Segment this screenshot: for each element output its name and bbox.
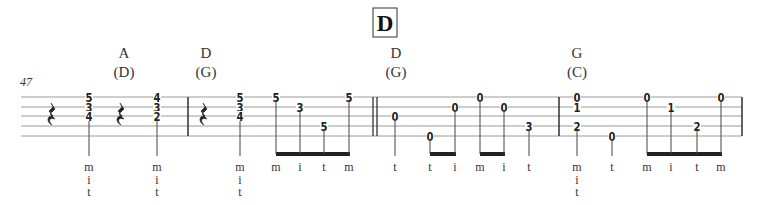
tab-note: 432mit: [152, 91, 162, 200]
finger-label: t: [575, 185, 579, 199]
finger-label: t: [322, 160, 326, 174]
fret-number: 0: [427, 130, 434, 144]
beam: [647, 152, 722, 156]
chord-symbol: D(G): [386, 45, 407, 81]
fret-number: 1: [574, 101, 581, 115]
chord-names: A(D)D(G)D(G)G(C): [114, 45, 587, 81]
tab-note: 5m: [344, 91, 354, 175]
tab-note: 5m: [271, 91, 281, 175]
chord-name: G: [572, 45, 583, 61]
finger-label: i: [669, 160, 673, 174]
chord-name: D: [391, 45, 402, 61]
tab-note: 0m: [716, 91, 726, 175]
chord-name: A: [119, 45, 130, 61]
fret-number: 2: [694, 120, 701, 134]
tab-note: 3t: [525, 120, 533, 175]
capo-chord-name: (D): [114, 64, 135, 81]
finger-label: m: [271, 160, 281, 174]
banjo-tablature: D 47 A(D)D(G)D(G)G(C) 534mit432mit534mit…: [0, 0, 757, 205]
tab-note: 3i: [296, 101, 304, 175]
capo-chord-name: (G): [386, 64, 407, 81]
chord-symbol: D(G): [196, 45, 217, 81]
finger-label: m: [572, 160, 582, 174]
finger-label: i: [298, 160, 302, 174]
fret-number: 3: [526, 120, 533, 134]
tab-note: 5t: [320, 120, 328, 175]
chord-name: D: [201, 45, 212, 61]
section-marker: D: [373, 8, 397, 37]
fret-number: 0: [452, 101, 459, 115]
section-label: D: [377, 11, 394, 36]
beams: [276, 152, 722, 156]
staff-lines: [21, 97, 742, 136]
rests: [48, 103, 207, 125]
tab-note: 2t: [693, 120, 701, 175]
finger-label: t: [393, 160, 397, 174]
fret-number: 5: [273, 91, 280, 105]
tab-note: 012mit: [572, 91, 582, 200]
tab-note: 0t: [426, 130, 434, 175]
tab-note: 534mit: [84, 91, 94, 200]
fret-number: 0: [718, 91, 725, 105]
fret-number: 5: [321, 120, 328, 134]
beam: [480, 152, 505, 156]
fret-number: 0: [477, 91, 484, 105]
chord-symbol: A(D): [114, 45, 135, 81]
quarter-rest-icon: [117, 103, 124, 125]
finger-label: m: [152, 160, 162, 174]
chord-symbol: G(C): [567, 45, 587, 81]
fret-number: 0: [609, 130, 616, 144]
fret-number: 4: [237, 110, 244, 124]
finger-label: m: [475, 160, 485, 174]
tab-note: 534mit: [235, 91, 245, 200]
tab-note: 0m: [642, 91, 652, 175]
beam: [430, 152, 456, 156]
beam: [276, 152, 350, 156]
finger-label: t: [238, 185, 242, 199]
capo-chord-name: (G): [196, 64, 217, 81]
tab-note: 0t: [391, 110, 399, 175]
finger-label: m: [344, 160, 354, 174]
finger-label: t: [155, 185, 159, 199]
finger-label: m: [84, 160, 94, 174]
fret-number: 2: [154, 110, 161, 124]
capo-chord-name: (C): [567, 64, 587, 81]
quarter-rest-icon: [48, 103, 55, 125]
finger-label: t: [610, 160, 614, 174]
fret-number: 4: [86, 110, 93, 124]
tab-note: 0m: [475, 91, 485, 175]
fret-number: 0: [644, 91, 651, 105]
quarter-rest-icon: [200, 103, 207, 125]
fret-number: 1: [668, 101, 675, 115]
fret-number: 3: [297, 101, 304, 115]
finger-label: t: [428, 160, 432, 174]
fret-number: 2: [574, 120, 581, 134]
finger-label: t: [695, 160, 699, 174]
finger-label: i: [453, 160, 457, 174]
finger-label: m: [716, 160, 726, 174]
tab-note: 0t: [608, 130, 616, 175]
finger-label: m: [642, 160, 652, 174]
measure-number: 47: [20, 75, 33, 89]
fret-number: 0: [501, 101, 508, 115]
tab-note: 0i: [500, 101, 508, 175]
finger-label: m: [235, 160, 245, 174]
finger-label: t: [87, 185, 91, 199]
fret-number: 5: [346, 91, 353, 105]
finger-label: i: [502, 160, 506, 174]
tab-note: 0i: [451, 101, 459, 175]
fret-number: 0: [392, 110, 399, 124]
finger-label: t: [527, 160, 531, 174]
tab-note: 1i: [667, 101, 675, 175]
